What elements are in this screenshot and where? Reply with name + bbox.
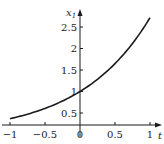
x-tick-label: 0.5 [107, 129, 123, 140]
x-axis-arrow-icon [155, 123, 162, 128]
y-axis-label: x1 [66, 7, 76, 20]
y-axis-label-sub: 1 [72, 12, 76, 20]
tick-labels: −1−0.500.510.511.522.5 [3, 22, 154, 141]
y-tick-label: 1.5 [61, 65, 77, 76]
y-tick-label: 2.5 [61, 22, 77, 33]
x-tick-label: −0.5 [33, 129, 57, 140]
y-axis-arrow-icon [78, 9, 83, 16]
chart-plot: −1−0.500.510.511.522.5 t x1 [0, 0, 164, 144]
x-tick-label: 0 [77, 129, 83, 140]
x-axis-label: t [158, 130, 163, 141]
x-tick-label: −1 [3, 129, 18, 140]
y-tick-label: 0.5 [61, 108, 77, 119]
axes [2, 9, 162, 137]
y-tick-label: 2 [71, 43, 77, 54]
x-tick-label: 1 [147, 129, 153, 140]
